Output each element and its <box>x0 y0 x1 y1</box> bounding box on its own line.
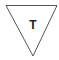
triangle-symbol: T <box>0 0 59 60</box>
triangle-label: T <box>29 18 37 32</box>
